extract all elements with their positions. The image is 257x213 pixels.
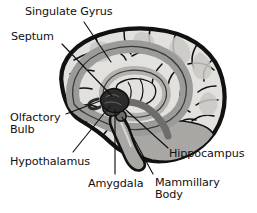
amygdala-structure [101, 89, 129, 113]
label-olfactory-bulb-line2: Bulb [10, 123, 35, 136]
label-amygdala: Amygdala [88, 178, 143, 190]
label-singulate-gyrus: Singulate Gyrus [25, 6, 113, 18]
label-hippocampus: Hippocampus [169, 148, 244, 160]
label-septum: Septum [11, 31, 54, 43]
label-hypothalamus: Hypothalamus [10, 156, 90, 168]
label-olfactory-bulb-line1: Olfactory [10, 111, 60, 124]
label-olfactory-bulb: OlfactoryBulb [10, 112, 60, 137]
label-mammillary-body-line1: Mammillary [155, 176, 220, 189]
brain-limbic-system-diagram: Singulate Gyrus Septum OlfactoryBulb Hyp… [0, 0, 257, 213]
label-mammillary-body-line2: Body [155, 188, 183, 201]
label-mammillary-body: MammillaryBody [155, 177, 220, 202]
